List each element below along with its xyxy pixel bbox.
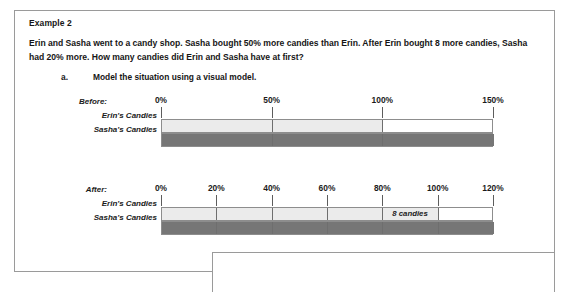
before-axis: 0%50%100%150% <box>15 95 545 119</box>
part-a-text: Model the situation using a visual model… <box>93 72 256 82</box>
part-a-letter: a. <box>61 72 93 82</box>
axis-tick-mark <box>438 195 439 206</box>
problem-statement: Erin and Sasha went to a candy shop. Sas… <box>29 37 543 64</box>
axis-tick-label: 80% <box>374 183 391 193</box>
part-a-row: a.Model the situation using a visual mod… <box>61 72 256 82</box>
axis-tick-label: 0% <box>155 95 167 105</box>
axis-tick-mark <box>382 195 383 206</box>
axis-tick-mark <box>161 195 162 206</box>
axis-tick-label: 100% <box>427 183 448 193</box>
bar-divider <box>272 134 273 146</box>
next-section-panel-fragment <box>212 252 555 292</box>
bar-track <box>161 119 493 133</box>
axis-tick-label: 50% <box>263 95 280 105</box>
bar-fill <box>162 134 494 146</box>
bar-divider <box>438 208 439 220</box>
worksheet-panel: Example 2 Erin and Sasha went to a candy… <box>14 10 555 272</box>
axis-tick-mark <box>382 107 383 118</box>
axis-tick-label: 100% <box>372 95 393 105</box>
bar-divider <box>382 222 383 234</box>
axis-tick-label: 60% <box>319 183 336 193</box>
bar-divider <box>438 222 439 234</box>
axis-tick-mark <box>327 195 328 206</box>
bar-divider <box>216 208 217 220</box>
bar-divider <box>272 222 273 234</box>
axis-tick-mark <box>272 195 273 206</box>
bar-track <box>161 207 493 221</box>
bar-divider <box>216 222 217 234</box>
bar-divider <box>382 134 383 146</box>
bar-fill <box>162 120 383 132</box>
before-row-label-sasha: Sasha's Candies <box>15 123 161 137</box>
axis-tick-mark <box>493 107 494 118</box>
axis-tick-mark <box>493 195 494 206</box>
bar-track <box>161 133 493 147</box>
axis-tick-mark <box>216 195 217 206</box>
bar-track <box>161 221 493 235</box>
after-axis: 0%20%40%60%80%100%120% <box>15 183 545 207</box>
axis-tick-label: 150% <box>482 95 503 105</box>
axis-tick-mark <box>272 107 273 118</box>
bar-divider <box>382 120 383 132</box>
after-row-label-sasha: Sasha's Candies <box>15 211 161 225</box>
axis-tick-label: 20% <box>208 183 225 193</box>
page-title: Example 2 <box>29 18 72 28</box>
axis-tick-mark <box>161 107 162 118</box>
axis-tick-label: 0% <box>155 183 167 193</box>
bar-divider <box>327 222 328 234</box>
bar-divider <box>327 208 328 220</box>
axis-tick-label: 40% <box>263 183 280 193</box>
bar-fill <box>162 222 494 234</box>
axis-tick-label: 120% <box>482 183 503 193</box>
bar-divider <box>272 120 273 132</box>
segment-annotation: 8 candies <box>382 207 437 221</box>
bar-divider <box>272 208 273 220</box>
